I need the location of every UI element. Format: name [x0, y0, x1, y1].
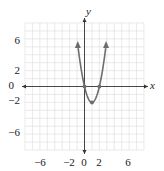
- x-tick-label: 0: [81, 156, 87, 168]
- x-axis-arrow-icon: [144, 85, 148, 89]
- y-axis-arrow-icon: [83, 150, 87, 154]
- chart: −6 −2 0 2 6 6 2 0 −2 −6 x y: [0, 0, 164, 171]
- x-tick-label: −2: [63, 156, 75, 168]
- y-tick-label: 0: [9, 79, 15, 91]
- x-axis-arrow-icon: [22, 85, 26, 89]
- y-tick-label: −2: [8, 94, 20, 106]
- curve-arrow-icon: [75, 41, 81, 48]
- y-axis-arrow-icon: [83, 18, 87, 22]
- curve-arrow-icon: [103, 41, 109, 48]
- y-axis-label: y: [85, 5, 91, 17]
- data-point: [83, 85, 87, 89]
- x-tick-label: −6: [34, 156, 46, 168]
- x-tick-label: 6: [125, 156, 131, 168]
- data-point: [97, 85, 101, 89]
- x-axis-label: x: [149, 79, 155, 91]
- y-tick-label: 6: [15, 34, 21, 46]
- y-tick-label: 2: [15, 64, 21, 76]
- y-tick-label: −6: [8, 126, 20, 138]
- x-tick-label: 2: [96, 156, 102, 168]
- data-point: [90, 100, 94, 104]
